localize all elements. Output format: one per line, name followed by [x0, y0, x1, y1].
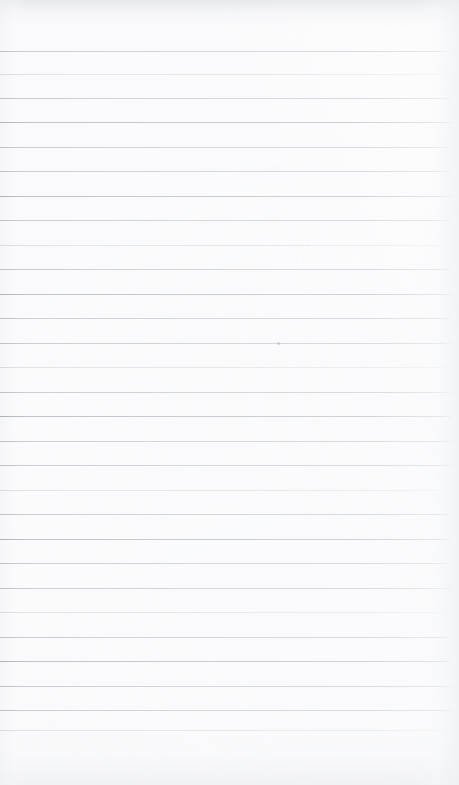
writing-area[interactable]: [0, 51, 453, 730]
lined-paper-page: [0, 0, 459, 785]
